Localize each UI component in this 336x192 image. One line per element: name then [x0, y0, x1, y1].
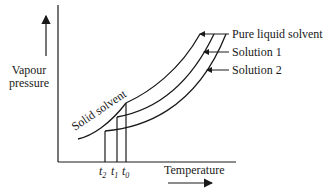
label-solution-2: Solution 2 [232, 64, 282, 77]
solution-2-curve [105, 34, 226, 131]
y-axis-label-line2: pressure [6, 77, 52, 90]
tick-t1-sub: 1 [114, 171, 118, 180]
tick-t1: t1 [111, 165, 118, 182]
solution-1-curve [117, 34, 214, 117]
x-axis-label: Temperature [164, 164, 224, 177]
tick-t2-sub: 2 [102, 171, 106, 180]
label-pure-liquid-solvent: Pure liquid solvent [232, 28, 323, 41]
y-axis-label: Vapour pressure [6, 64, 52, 90]
label-solution-1: Solution 1 [232, 46, 282, 59]
tick-t0-sub: 0 [125, 171, 129, 180]
tick-t2: t2 [99, 165, 106, 182]
tick-t0: t0 [122, 165, 129, 182]
